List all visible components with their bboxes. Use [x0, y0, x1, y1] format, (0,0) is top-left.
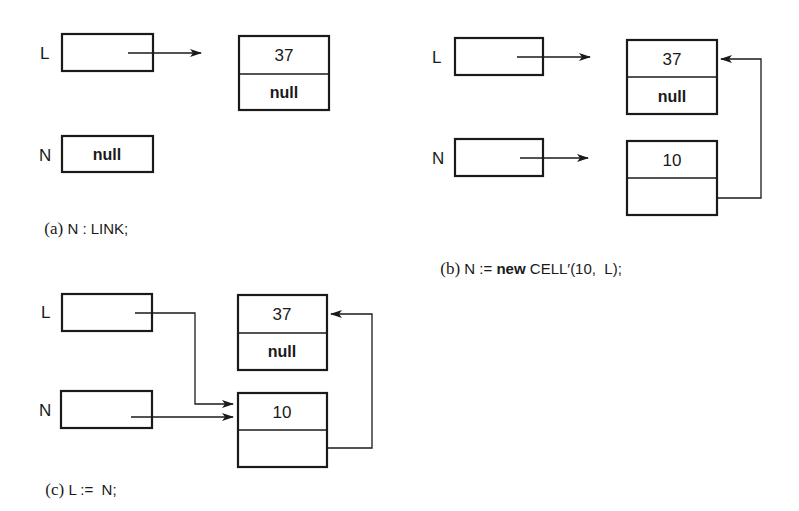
panel-c: L N 37 null 10: [39, 294, 372, 467]
panel-b: L N 37 null 10: [432, 38, 761, 215]
cell-next-null: null: [658, 88, 686, 105]
next-pointer-10-to-37: [717, 59, 761, 198]
caption-c-tag: (c): [45, 480, 64, 499]
panel-a-var-L: L: [40, 34, 201, 71]
panel-c-var-L: L: [41, 294, 233, 404]
var-N-label: N: [432, 149, 444, 168]
linked-list-diagram: L 37 null N null L N: [0, 0, 799, 511]
cell-value: 37: [663, 50, 682, 69]
var-N-label: N: [39, 146, 51, 165]
cell-next-null: null: [268, 343, 296, 360]
panel-a-var-N: N null: [39, 136, 153, 172]
panel-c-cell-10: 10: [238, 393, 327, 467]
cell-next-null: null: [270, 84, 298, 101]
caption-c: (c) L := N;: [37, 463, 117, 500]
var-L-label: L: [432, 48, 441, 67]
panel-b-cell-37: 37 null: [627, 40, 717, 114]
var-N-null: null: [93, 146, 121, 163]
panel-c-var-N: N: [39, 391, 233, 428]
cell-value: 10: [273, 403, 292, 422]
panel-c-cell-37: 37 null: [238, 295, 327, 370]
next-pointer-10-to-37: [327, 314, 372, 448]
var-N-label: N: [39, 401, 51, 420]
caption-b-keyword-new: new: [496, 260, 525, 277]
panel-a-cell-37: 37 null: [239, 36, 329, 110]
panel-b-var-L: L: [432, 38, 590, 75]
caption-b-post: CELL′(10, L);: [526, 260, 622, 277]
cell-value: 37: [273, 305, 292, 324]
caption-b-tag: (b): [440, 259, 460, 278]
panel-b-cell-10: 10: [627, 141, 717, 215]
caption-b-pre: N :=: [460, 260, 496, 277]
caption-b: (b) N := new CELL′(10, L);: [432, 242, 622, 279]
panel-a: L 37 null N null: [39, 34, 329, 172]
cell-value: 10: [663, 151, 682, 170]
var-N-box: [61, 391, 152, 428]
var-L-label: L: [41, 303, 50, 322]
panel-b-var-N: N: [432, 139, 588, 176]
var-L-label: L: [40, 44, 49, 63]
caption-c-code: L := N;: [64, 481, 116, 498]
caption-a-code: N : LINK;: [63, 220, 128, 237]
caption-a-tag: (a): [44, 219, 63, 238]
caption-a: (a) N : LINK;: [36, 202, 128, 239]
cell-value: 37: [275, 46, 294, 65]
